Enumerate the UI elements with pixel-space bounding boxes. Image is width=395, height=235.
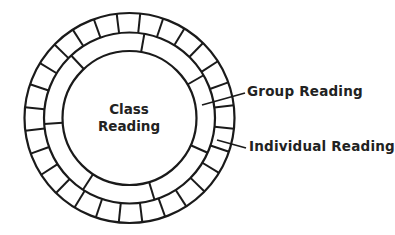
middle-ring-divider bbox=[149, 182, 154, 200]
group-reading-label: Group Reading bbox=[247, 83, 363, 99]
outer-ring-divider bbox=[25, 107, 44, 109]
outer-ring-divider bbox=[157, 19, 163, 37]
outer-ring-divider bbox=[30, 84, 48, 90]
outer-ring-divider bbox=[119, 203, 121, 222]
class-reading-line1: Class bbox=[89, 101, 169, 118]
outer-ring-divider bbox=[189, 43, 203, 57]
outer-ring-divider bbox=[159, 198, 166, 216]
class-reading-line2: Reading bbox=[89, 118, 169, 135]
outer-ring-divider bbox=[25, 128, 44, 130]
outer-ring-divider bbox=[96, 199, 102, 217]
group-reading-leader-line bbox=[202, 93, 245, 105]
outer-ring-divider bbox=[215, 127, 234, 129]
individual-reading-label: Individual Reading bbox=[249, 138, 395, 154]
outer-ring-divider bbox=[140, 203, 142, 222]
outer-ring-divider bbox=[201, 61, 217, 72]
outer-ring-divider bbox=[210, 145, 228, 151]
class-reading-label: Class Reading bbox=[89, 101, 169, 135]
outer-ring-divider bbox=[117, 14, 119, 33]
outer-ring-divider bbox=[210, 82, 228, 89]
middle-ring-divider bbox=[191, 145, 208, 153]
outer-ring-divider bbox=[31, 147, 49, 154]
outer-ring-divider bbox=[176, 190, 187, 206]
outer-ring-divider bbox=[40, 63, 57, 73]
outer-ring-divider bbox=[75, 191, 85, 208]
outer-ring-divider bbox=[138, 14, 140, 33]
outer-ring-divider bbox=[55, 44, 69, 58]
outer-ring-divider bbox=[202, 163, 219, 173]
outer-ring-divider bbox=[56, 179, 70, 193]
middle-ring-divider bbox=[188, 75, 204, 84]
middle-ring-divider bbox=[71, 55, 84, 69]
outer-ring-divider bbox=[174, 29, 184, 46]
outer-ring-divider bbox=[94, 19, 101, 37]
middle-ring-divider bbox=[141, 34, 144, 52]
outer-ring-divider bbox=[191, 178, 205, 192]
outer-ring-divider bbox=[73, 30, 84, 46]
outer-ring-divider bbox=[41, 164, 57, 175]
middle-ring-divider bbox=[83, 174, 93, 190]
outer-ring-divider bbox=[214, 105, 233, 107]
middle-ring-divider bbox=[44, 123, 62, 124]
